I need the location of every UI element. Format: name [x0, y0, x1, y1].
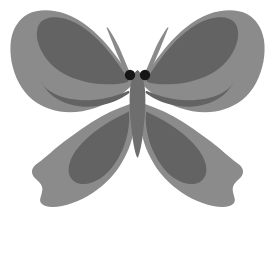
right-eye — [140, 70, 150, 80]
left-eye — [125, 70, 135, 80]
butterfly-illustration — [0, 0, 275, 256]
artboard: Stylized gray butterfly with symmetric w… — [0, 0, 275, 256]
